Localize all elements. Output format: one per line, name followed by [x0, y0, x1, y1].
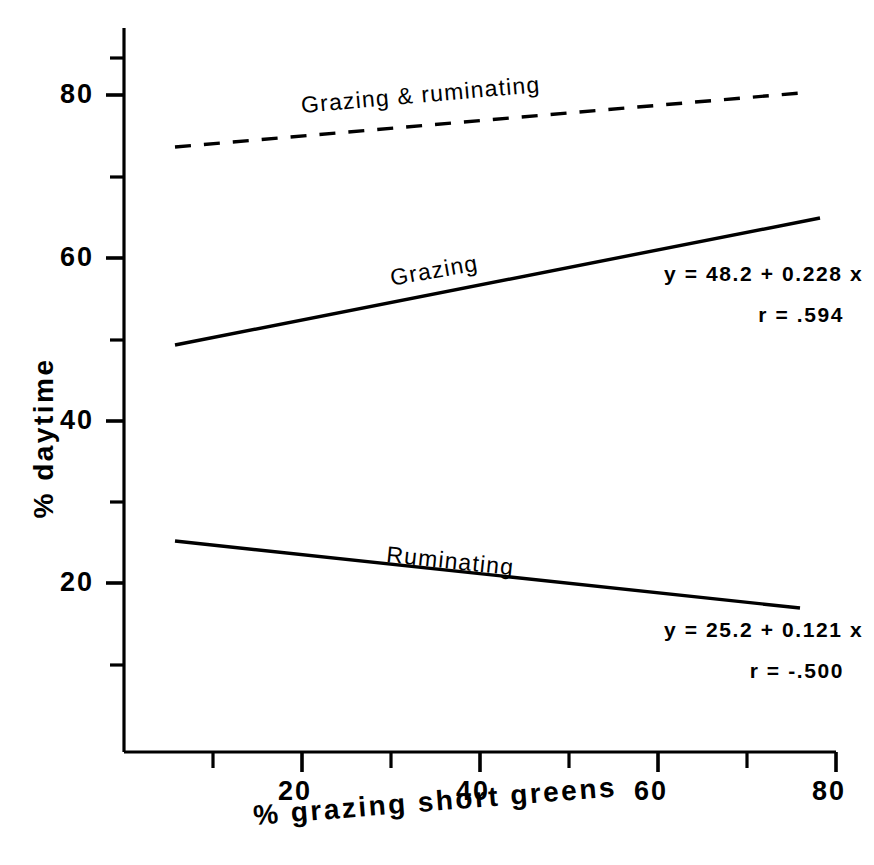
x-tick-label-60: 60: [634, 776, 668, 807]
y-tick-label-80: 80: [60, 79, 94, 110]
correlation-grazing: r = .594: [664, 303, 844, 327]
y-axis-ticks: [106, 58, 124, 665]
equation-block-grazing: y = 48.2 + 0.228 x r = .594: [664, 262, 844, 327]
correlation-ruminating: r = -.500: [664, 659, 844, 683]
y-axis-title-wrapper: % daytime: [14, 318, 74, 558]
y-tick-label-20: 20: [60, 567, 94, 598]
x-tick-label-80: 80: [812, 776, 846, 807]
y-axis-title: % daytime: [28, 358, 60, 519]
equation-grazing: y = 48.2 + 0.228 x: [664, 262, 844, 286]
x-axis-ticks: [213, 752, 836, 772]
chart-canvas: [0, 0, 874, 865]
equation-ruminating: y = 25.2 + 0.121 x: [664, 618, 844, 642]
equation-block-ruminating: y = 25.2 + 0.121 x r = -.500: [664, 618, 844, 683]
chart-figure: 80 60 40 20 20 40 60 80 % daytime % graz…: [0, 0, 874, 865]
y-tick-label-60: 60: [60, 242, 94, 273]
